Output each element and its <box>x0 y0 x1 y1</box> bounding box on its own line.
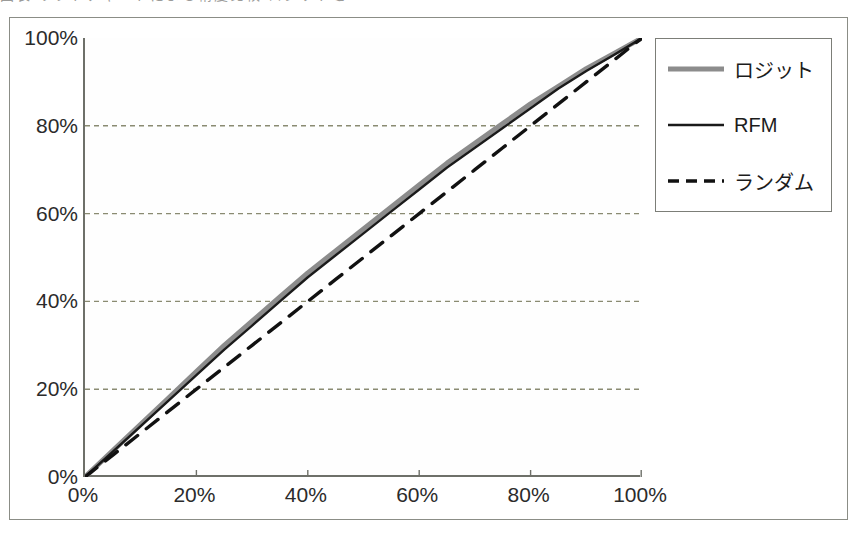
data-series-layer <box>85 38 642 477</box>
legend-label: ロジット <box>734 55 814 84</box>
x-tick-label: 60% <box>396 483 438 507</box>
x-tick-label: 100% <box>613 483 667 507</box>
cut-off-caption: 図表 リフトチャートによる精度比較 ロジットとRFM <box>0 0 855 14</box>
plot-svg <box>85 38 642 477</box>
y-tick-label: 60% <box>4 202 78 226</box>
x-tick-label: 40% <box>285 483 327 507</box>
x-axis-tick-marks <box>196 470 641 477</box>
plot-area <box>83 38 640 477</box>
y-tick-label: 80% <box>4 114 78 138</box>
y-tick-label: 40% <box>4 289 78 313</box>
legend-line-swatch <box>667 174 725 188</box>
x-tick-label: 20% <box>173 483 215 507</box>
y-tick-label: 20% <box>4 377 78 401</box>
x-axis: 0%20%40%60%80%100% <box>83 483 640 515</box>
legend-line-swatch <box>667 62 725 76</box>
legend: ロジットRFMランダム <box>655 38 832 212</box>
legend-item[interactable]: RFM <box>656 103 831 147</box>
y-tick-label: 100% <box>4 26 78 50</box>
series-line <box>85 38 642 477</box>
legend-line-swatch <box>667 118 725 132</box>
legend-label: ランダム <box>734 167 814 196</box>
legend-item[interactable]: ランダム <box>656 159 831 203</box>
x-tick-label: 0% <box>68 483 98 507</box>
legend-label: RFM <box>734 114 777 137</box>
x-tick-label: 80% <box>508 483 550 507</box>
y-axis: 0%20%40%60%80%100% <box>0 38 78 477</box>
legend-item[interactable]: ロジット <box>656 47 831 91</box>
